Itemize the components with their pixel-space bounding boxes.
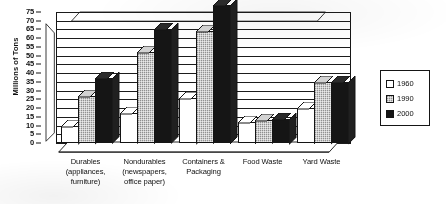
legend-item[interactable]: 2000 — [386, 106, 429, 121]
bar-group — [115, 12, 174, 143]
y-tick-mark — [36, 12, 41, 13]
y-tick-mark — [36, 81, 41, 82]
legend-swatch-2000-icon — [386, 110, 394, 118]
y-tick-mark — [36, 20, 41, 21]
bar-top-face — [179, 92, 195, 99]
x-axis-label-line: Packaging — [168, 167, 239, 177]
y-tick-mark — [36, 46, 41, 47]
y-tick-label: 35 — [12, 78, 34, 86]
bar-top-face — [297, 102, 313, 109]
bar-group — [56, 12, 115, 143]
bar-side-face — [112, 72, 120, 135]
y-tick-label: 15 — [12, 113, 34, 121]
x-axis-category-labels: Durables(appliances,furniture)Nondurable… — [46, 157, 351, 204]
x-axis-label-line: office paper) — [109, 177, 180, 187]
y-tick-label: 50 — [12, 52, 34, 60]
bar-side-face — [171, 23, 179, 135]
bar-2000-1[interactable] — [95, 78, 113, 143]
bar-1990-1[interactable] — [78, 96, 96, 143]
bar-top-face — [255, 114, 271, 121]
legend-item[interactable]: 1990 — [386, 91, 429, 106]
y-tick-mark — [36, 90, 41, 91]
bar-top-face — [196, 25, 212, 32]
y-tick-mark — [36, 64, 41, 65]
y-tick-mark — [36, 125, 41, 126]
bar-2000-2[interactable] — [154, 29, 172, 143]
bar-top-face — [314, 76, 330, 83]
legend: 1960 1990 2000 — [380, 70, 430, 126]
legend-swatch-1990-icon — [386, 95, 394, 103]
bar-1960-5[interactable] — [297, 108, 315, 143]
legend-label: 2000 — [397, 110, 414, 118]
bar-top-face — [272, 113, 288, 120]
plot-left-depth-face — [46, 12, 56, 153]
bar-top-face — [238, 116, 254, 123]
legend-label: 1990 — [397, 95, 414, 103]
chart-figure: Millions of Tons 75706560555045403530252… — [0, 0, 446, 204]
y-tick-label: 40 — [12, 69, 34, 77]
x-axis-label-line: Yard Waste — [286, 157, 357, 167]
bar-top-face — [331, 76, 347, 83]
y-tick-mark — [36, 73, 41, 74]
bar-group — [292, 12, 351, 143]
legend-swatch-1960-icon — [386, 80, 394, 88]
y-tick-mark — [36, 38, 41, 39]
y-tick-label: 75 — [12, 8, 34, 16]
y-tick-label: 30 — [12, 87, 34, 95]
bar-group — [174, 12, 233, 143]
y-tick-label: 70 — [12, 17, 34, 25]
bar-2000-5[interactable] — [331, 82, 349, 143]
bar-top-face — [120, 107, 136, 114]
x-axis-label-5: Yard Waste — [286, 157, 357, 167]
y-tick-label: 55 — [12, 43, 34, 51]
bar-2000-3[interactable] — [213, 5, 231, 143]
bar-side-face — [289, 113, 297, 135]
bar-top-face — [137, 46, 153, 53]
y-tick-mark — [36, 108, 41, 109]
bar-1960-1[interactable] — [61, 126, 79, 143]
legend-item[interactable]: 1960 — [386, 76, 429, 91]
bar-group — [233, 12, 292, 143]
bar-1990-5[interactable] — [314, 82, 332, 143]
bar-top-face — [61, 120, 77, 127]
legend-label: 1960 — [397, 80, 414, 88]
bar-top-face — [95, 72, 111, 79]
bar-1990-2[interactable] — [137, 52, 155, 143]
y-tick-mark — [36, 116, 41, 117]
plot-area — [46, 12, 351, 153]
y-tick-label: 45 — [12, 61, 34, 69]
y-tick-mark — [36, 55, 41, 56]
bar-side-face — [348, 76, 356, 135]
bar-1990-4[interactable] — [255, 120, 273, 143]
y-tick-label: 65 — [12, 26, 34, 34]
y-tick-mark — [36, 99, 41, 100]
y-tick-mark — [36, 143, 41, 144]
bar-1990-3[interactable] — [196, 31, 214, 143]
y-tick-label: 20 — [12, 104, 34, 112]
y-tick-label: 10 — [12, 122, 34, 130]
y-tick-label: 0 — [12, 139, 34, 147]
bar-top-face — [213, 0, 229, 6]
y-tick-label: 25 — [12, 96, 34, 104]
bar-top-face — [78, 90, 94, 97]
bar-1960-3[interactable] — [179, 98, 197, 143]
y-tick-mark — [36, 134, 41, 135]
y-tick-label: 5 — [12, 131, 34, 139]
y-tick-mark — [36, 29, 41, 30]
bar-top-face — [154, 23, 170, 30]
bar-series-container — [56, 12, 351, 143]
y-tick-label: 60 — [12, 34, 34, 42]
bar-2000-4[interactable] — [272, 119, 290, 143]
bar-side-face — [230, 0, 238, 135]
bar-1960-2[interactable] — [120, 113, 138, 143]
bar-1960-4[interactable] — [238, 122, 256, 143]
y-axis: Millions of Tons 75706560555045403530252… — [0, 12, 46, 153]
